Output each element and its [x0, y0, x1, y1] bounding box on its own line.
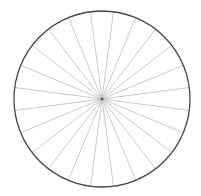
center-point: [100, 97, 103, 100]
pie-chart: [0, 0, 201, 196]
